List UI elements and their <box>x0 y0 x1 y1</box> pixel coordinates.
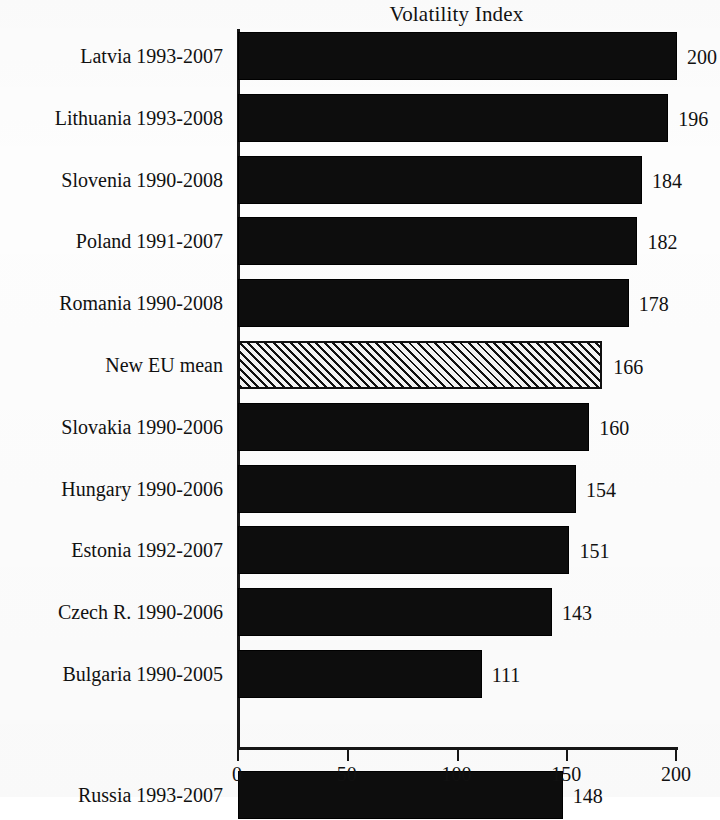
bar: 151 <box>238 526 569 574</box>
bar-value-label: 154 <box>586 466 616 514</box>
bar-value-label: 143 <box>562 589 592 637</box>
x-axis-tick-mark <box>457 750 459 761</box>
bar-row: Lithuania 1993-2008196 <box>237 94 676 142</box>
category-label: Bulgaria 1990-2005 <box>0 650 223 698</box>
bar-value-label: 182 <box>647 218 677 266</box>
bar: 196 <box>238 94 668 142</box>
bar-value-label: 111 <box>492 651 521 699</box>
x-axis-tick-label: 0 <box>207 762 267 786</box>
bar-value-label: 184 <box>652 157 682 205</box>
bar-row: Estonia 1992-2007151 <box>237 526 676 574</box>
bar: 182 <box>238 217 637 265</box>
category-label: New EU mean <box>0 341 223 389</box>
x-axis-tick-mark <box>237 750 239 761</box>
category-label: Czech R. 1990-2006 <box>0 588 223 636</box>
bar-value-label: 166 <box>613 343 643 391</box>
bar-row: Poland 1991-2007182 <box>237 217 676 265</box>
bar-row: Latvia 1993-2007200 <box>237 32 676 80</box>
bar: 148 <box>238 771 563 819</box>
x-axis-tick-label: 100 <box>427 762 487 786</box>
bar: 160 <box>238 403 589 451</box>
bar-value-label: 200 <box>687 33 717 81</box>
bar-value-label: 196 <box>678 95 708 143</box>
bar-value-label: 151 <box>579 527 609 575</box>
category-label: Lithuania 1993-2008 <box>0 94 223 142</box>
bar: 184 <box>238 156 642 204</box>
x-axis-tick-mark <box>675 750 677 761</box>
category-label: Estonia 1992-2007 <box>0 526 223 574</box>
category-label: Poland 1991-2007 <box>0 217 223 265</box>
category-label: Romania 1990-2008 <box>0 279 223 327</box>
bar: 200 <box>238 32 677 80</box>
bar-mean: 166 <box>238 341 602 389</box>
bar-row: Slovenia 1990-2008184 <box>237 156 676 204</box>
bar-row: Czech R. 1990-2006143 <box>237 588 676 636</box>
x-axis-tick-mark <box>347 750 349 761</box>
category-label: Slovakia 1990-2006 <box>0 403 223 451</box>
bar: 178 <box>238 279 629 327</box>
x-axis-tick-label: 50 <box>317 762 377 786</box>
bar-value-label: 160 <box>599 404 629 452</box>
bar: 111 <box>238 650 482 698</box>
bar-row: Bulgaria 1990-2005111 <box>237 650 676 698</box>
bar-row: Slovakia 1990-2006160 <box>237 403 676 451</box>
bar: 154 <box>238 465 576 513</box>
bar-row: Hungary 1990-2006154 <box>237 465 676 513</box>
x-axis-tick-label: 200 <box>646 762 706 786</box>
category-label: Slovenia 1990-2008 <box>0 156 223 204</box>
category-label: Russia 1993-2007 <box>0 771 223 819</box>
bar-row: New EU mean166 <box>237 341 676 389</box>
x-axis-tick-mark <box>566 750 568 761</box>
plot-area: Latvia 1993-2007200Lithuania 1993-200819… <box>237 32 676 748</box>
category-label: Latvia 1993-2007 <box>0 32 223 80</box>
bar-row: Romania 1990-2008178 <box>237 279 676 327</box>
x-axis-tick-label: 150 <box>536 762 596 786</box>
chart-title: Volatility Index <box>237 1 676 27</box>
bar: 143 <box>238 588 552 636</box>
bar-value-label: 178 <box>639 280 669 328</box>
category-label: Hungary 1990-2006 <box>0 465 223 513</box>
